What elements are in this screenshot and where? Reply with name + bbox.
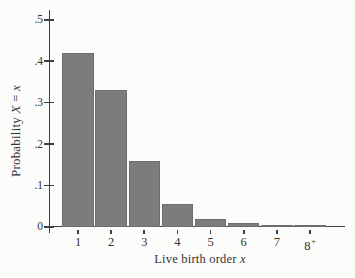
x-tick-label: 4 <box>162 234 192 250</box>
y-tick <box>44 143 54 145</box>
x-tick-label: 6 <box>229 234 259 250</box>
x-axis-title: Live birth order x <box>130 251 270 267</box>
x-tick-label: 2 <box>96 234 126 250</box>
y-tick <box>44 19 54 21</box>
bar-8+ <box>294 225 325 227</box>
y-tick <box>44 102 54 104</box>
x-tick-label-base: 8 <box>304 239 310 253</box>
y-tick <box>44 226 54 228</box>
plot-area: Probability X = x Live birth order x 0.1… <box>0 0 355 278</box>
axis-title-part: x <box>8 85 23 91</box>
x-tick-label: 3 <box>129 234 159 250</box>
y-axis-line <box>49 10 51 233</box>
y-tick-label: .4 <box>18 54 43 69</box>
x-tick-label: 5 <box>196 234 226 250</box>
bar-1 <box>62 53 93 227</box>
y-tick <box>44 60 54 62</box>
probability-histogram-figure: Probability X = x Live birth order x 0.1… <box>0 0 355 278</box>
y-tick-label: .5 <box>18 12 43 27</box>
x-tick-label: 1 <box>63 234 93 250</box>
bar-7 <box>261 225 292 227</box>
y-axis-title: Probability X = x <box>8 66 24 196</box>
y-tick-label: 0 <box>18 219 43 234</box>
y-tick <box>44 185 54 187</box>
y-tick-label: .3 <box>18 95 43 110</box>
bar-5 <box>195 219 226 227</box>
x-tick-label: 7 <box>262 234 292 250</box>
bar-6 <box>228 223 259 227</box>
y-tick-label: .2 <box>18 137 43 152</box>
y-tick-label: .1 <box>18 178 43 193</box>
bar-4 <box>162 204 193 227</box>
axis-title-part: Live birth order <box>154 252 240 266</box>
plus-superscript: + <box>311 236 316 246</box>
bar-3 <box>129 161 160 226</box>
x-tick-label: 8+ <box>295 234 325 254</box>
bar-2 <box>95 90 126 227</box>
axis-title-part: x <box>240 252 246 266</box>
